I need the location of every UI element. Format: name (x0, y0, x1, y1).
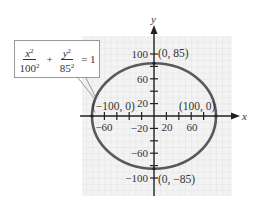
y-tick-label: −60 (131, 147, 149, 159)
point-label-right: (100, 0) (179, 100, 216, 113)
y-tick-label: −20 (131, 122, 149, 134)
x-term-fraction: x2 1002 (17, 45, 41, 74)
point-label-top: (0, 85) (158, 47, 189, 60)
y-term-fraction: y2 852 (58, 45, 77, 74)
x-denominator-exponent: 2 (36, 62, 40, 70)
x-tick-label: 20 (162, 121, 174, 133)
y-tick-label: −100 (125, 172, 148, 184)
equation-callout: x2 1002 + y2 852 = 1 (14, 40, 100, 78)
equals-one: = 1 (81, 53, 95, 65)
x-axis-arrow-icon (231, 113, 240, 120)
x-tick-label: 60 (187, 121, 199, 133)
y-denominator-exponent: 2 (71, 62, 75, 70)
x-tick-label: −60 (95, 121, 113, 133)
y-tick-label: 20 (137, 97, 149, 109)
ellipse-chart: −60 20 60 100 60 20 −20 −60 −100 (0, 85)… (0, 0, 259, 200)
point-label-bottom: (0, −85) (158, 173, 195, 186)
x-exponent: 2 (30, 47, 34, 55)
x-axis-label: x (241, 110, 247, 122)
point-label-left: (−100, 0) (92, 100, 135, 113)
y-tick-label: 100 (132, 48, 149, 60)
y-axis-label: y (150, 13, 156, 25)
y-denominator: 85 (60, 62, 71, 74)
y-exponent: 2 (68, 47, 72, 55)
y-tick-label: 60 (137, 73, 149, 85)
plus-sign: + (46, 53, 52, 65)
y-axis-arrow-icon (151, 25, 158, 34)
x-denominator: 100 (19, 62, 36, 74)
